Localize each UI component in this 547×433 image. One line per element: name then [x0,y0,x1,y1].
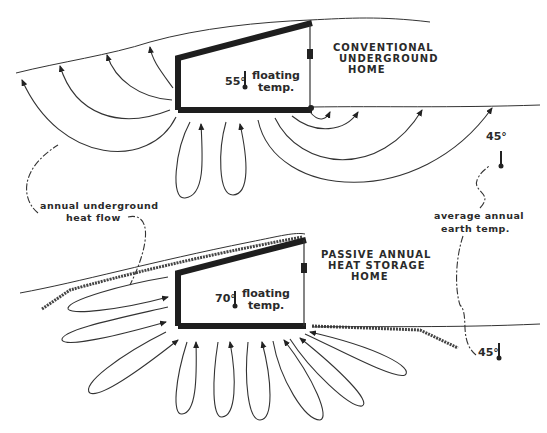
flow-arrow-icon [176,342,196,414]
earth-temp-leader-down [457,236,476,355]
thermometer-icon [499,151,504,169]
flow-arrow-icon [150,47,173,88]
window-frame-bottom [301,263,307,273]
section-title-top: CONVENTIONAL UNDERGROUND HOME [333,42,443,75]
conventional-home-section: CONVENTIONAL UNDERGROUND HOME 55° floati… [16,18,540,198]
insulation-umbrella-bottom [312,326,458,348]
flow-arrow-icon [107,55,172,100]
flow-arrow-icon [62,307,168,342]
earth-temp-top: 45° [486,130,507,143]
flow-arrow-icon [221,122,246,195]
earth-temp-leader-up [476,165,490,208]
earth-temp-bottom: 45° [478,346,499,359]
window-frame-top [307,49,313,59]
flow-arrow-icon [60,66,170,119]
earth-temp-annotation: average annual earth temp. [434,210,528,234]
flow-arrow-icon [176,122,202,198]
flow-arrow-icon [273,340,323,420]
earth-surface-bottom [20,233,305,293]
ground-line-bottom [312,324,540,327]
corner-joint-top [308,105,314,111]
flow-arrow-icon [68,277,168,312]
heat-flow-diagram: CONVENTIONAL UNDERGROUND HOME 55° floati… [0,0,547,433]
flow-arrow-icon [88,332,178,394]
flow-arrow-icon [292,112,358,129]
passive-home-section: PASSIVE ANNUAL HEAT STORAGE HOME 70° flo… [20,233,540,420]
flow-arrow-icon [305,332,406,376]
flow-arrow-icon [258,108,492,182]
inside-temp-bottom: 70° [215,292,236,305]
heat-flow-annotation: annual underground heat flow [40,200,162,223]
flow-arrow-icon [214,342,234,417]
house-shell-top [178,23,312,110]
flow-arrow-icon [290,338,364,406]
floating-temp-label-bottom: floating temp. [242,287,294,312]
ground-line-top [312,105,540,107]
section-title-bottom: PASSIVE ANNUAL HEAT STORAGE HOME [321,249,436,282]
flow-arrow-icon [310,112,330,119]
flow-arrow-icon [275,110,422,160]
floating-temp-label-top: floating temp. [252,69,304,94]
flow-arrow-icon [247,342,271,420]
